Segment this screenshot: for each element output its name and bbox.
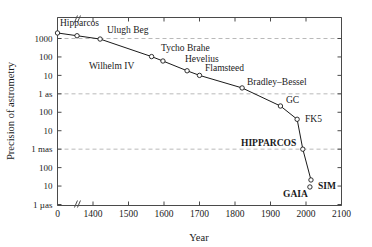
data-point-label: GC (286, 95, 299, 105)
y-tick-label: 1 as (38, 89, 53, 99)
x-tick-label: 0 (55, 209, 60, 219)
y-tick-label: 100 (39, 163, 53, 173)
x-tick-label: 2100 (332, 209, 351, 219)
data-point-marker (295, 117, 299, 121)
y-tick-label: 1 µas (33, 200, 53, 210)
data-point-label: Tycho Brahe (161, 43, 210, 53)
data-point-marker (309, 178, 313, 182)
data-point-label: SIM (318, 181, 336, 191)
data-point-label: Flamsteed (205, 63, 244, 73)
data-point-label: Bradley–Bessel (247, 77, 307, 87)
x-tick-label: 1600 (155, 209, 174, 219)
data-point-marker (278, 104, 282, 108)
data-point-marker (75, 34, 79, 38)
x-tick-label: 1900 (261, 209, 280, 219)
y-tick-labels: 1000100101 as100101 mas100101 µas (31, 34, 53, 210)
chart-figure: 1000100101 as100101 mas100101 µas 014001… (0, 0, 372, 247)
data-point-marker (301, 147, 305, 151)
data-point-label: Hipparcos (60, 18, 99, 28)
x-tick-label: 2000 (297, 209, 316, 219)
x-tick-label: 1700 (190, 209, 209, 219)
data-point-labels: HipparcosUlugh BegWilhelm IVTycho BraheH… (60, 18, 336, 199)
data-point-label: Ulugh Beg (107, 25, 149, 35)
precision-of-astrometry-chart: 1000100101 as100101 mas100101 µas 014001… (0, 0, 372, 247)
data-point-marker (161, 59, 165, 63)
data-point-marker (240, 86, 244, 90)
x-tick-label: 1400 (84, 209, 103, 219)
data-point-label: Wilhelm IV (89, 61, 134, 71)
y-tick-label: 100 (39, 52, 53, 62)
data-point-marker (149, 54, 153, 58)
y-tick-label: 10 (44, 181, 54, 191)
data-point-label: GAIA (283, 189, 308, 199)
data-point-marker (308, 185, 312, 189)
x-tick-labels: 014001500160017001800190020002100 (55, 209, 351, 219)
y-tick-label: 1000 (35, 34, 54, 44)
data-point-marker (197, 73, 201, 77)
data-point-label: HIPPARCOS (241, 138, 296, 148)
data-point-marker (98, 37, 102, 41)
data-point-label: FK5 (305, 114, 322, 124)
data-point-marker (185, 69, 189, 73)
y-axis-title: Precision of astrometry (5, 61, 16, 160)
data-point-marker (55, 31, 59, 35)
x-tick-label: 1500 (119, 209, 138, 219)
y-tick-label: 100 (39, 107, 53, 117)
x-tick-label: 1800 (226, 209, 245, 219)
y-tick-label: 10 (44, 126, 54, 136)
x-axis-title: Year (189, 232, 209, 243)
y-tick-label: 1 mas (31, 144, 53, 154)
y-tick-label: 10 (44, 71, 54, 81)
